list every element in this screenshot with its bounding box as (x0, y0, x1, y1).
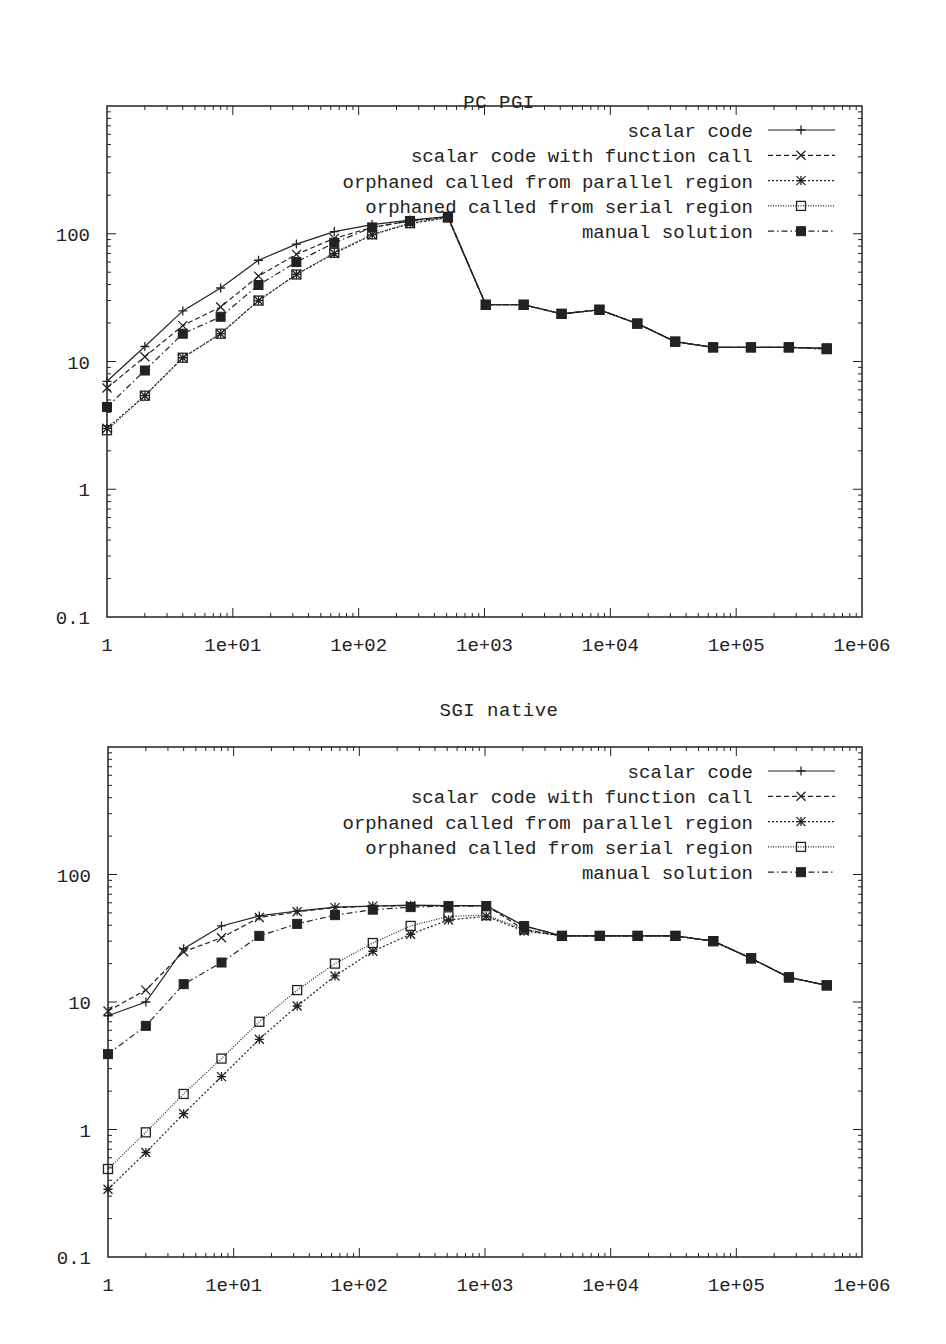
x-tick-label: 1e+05 (708, 1275, 765, 1297)
svg-text:scalar code: scalar code (628, 762, 753, 784)
x-tick-label: 1e+02 (331, 1275, 388, 1297)
svg-text:manual solution: manual solution (582, 863, 753, 885)
y-tick-label: 10 (68, 993, 91, 1015)
series-filled-square (104, 902, 832, 1059)
svg-text:orphaned called from parallel: orphaned called from parallel region (343, 813, 753, 835)
x-tick-label: 1e+03 (456, 1275, 513, 1297)
y-tick-label: 100 (57, 866, 91, 888)
legend-entry: orphaned called from parallel region (343, 813, 835, 835)
chart-sgi-native: SGI native 11e+011e+021e+031e+041e+051e+… (0, 0, 946, 672)
legend-entry: manual solution (582, 863, 835, 885)
x-tick-label: 1e+01 (205, 1275, 262, 1297)
x-tick-label: 1e+06 (833, 1275, 890, 1297)
legend-entry: orphaned called from serial region (365, 838, 835, 860)
plot-area: 11e+011e+021e+031e+041e+051e+060.1110100… (0, 0, 946, 1344)
y-tick-label: 1 (80, 1121, 91, 1143)
y-tick-label: 0.1 (57, 1248, 91, 1270)
series-open-square (104, 911, 832, 1174)
svg-text:orphaned called from serial re: orphaned called from serial region (365, 838, 753, 860)
legend-entry: scalar code (628, 762, 835, 784)
series-star (104, 912, 832, 1194)
legend-entry: scalar code with function call (411, 787, 835, 809)
x-tick-label: 1e+04 (582, 1275, 639, 1297)
x-tick-label: 1 (102, 1275, 113, 1297)
svg-text:scalar code with function call: scalar code with function call (411, 787, 753, 809)
